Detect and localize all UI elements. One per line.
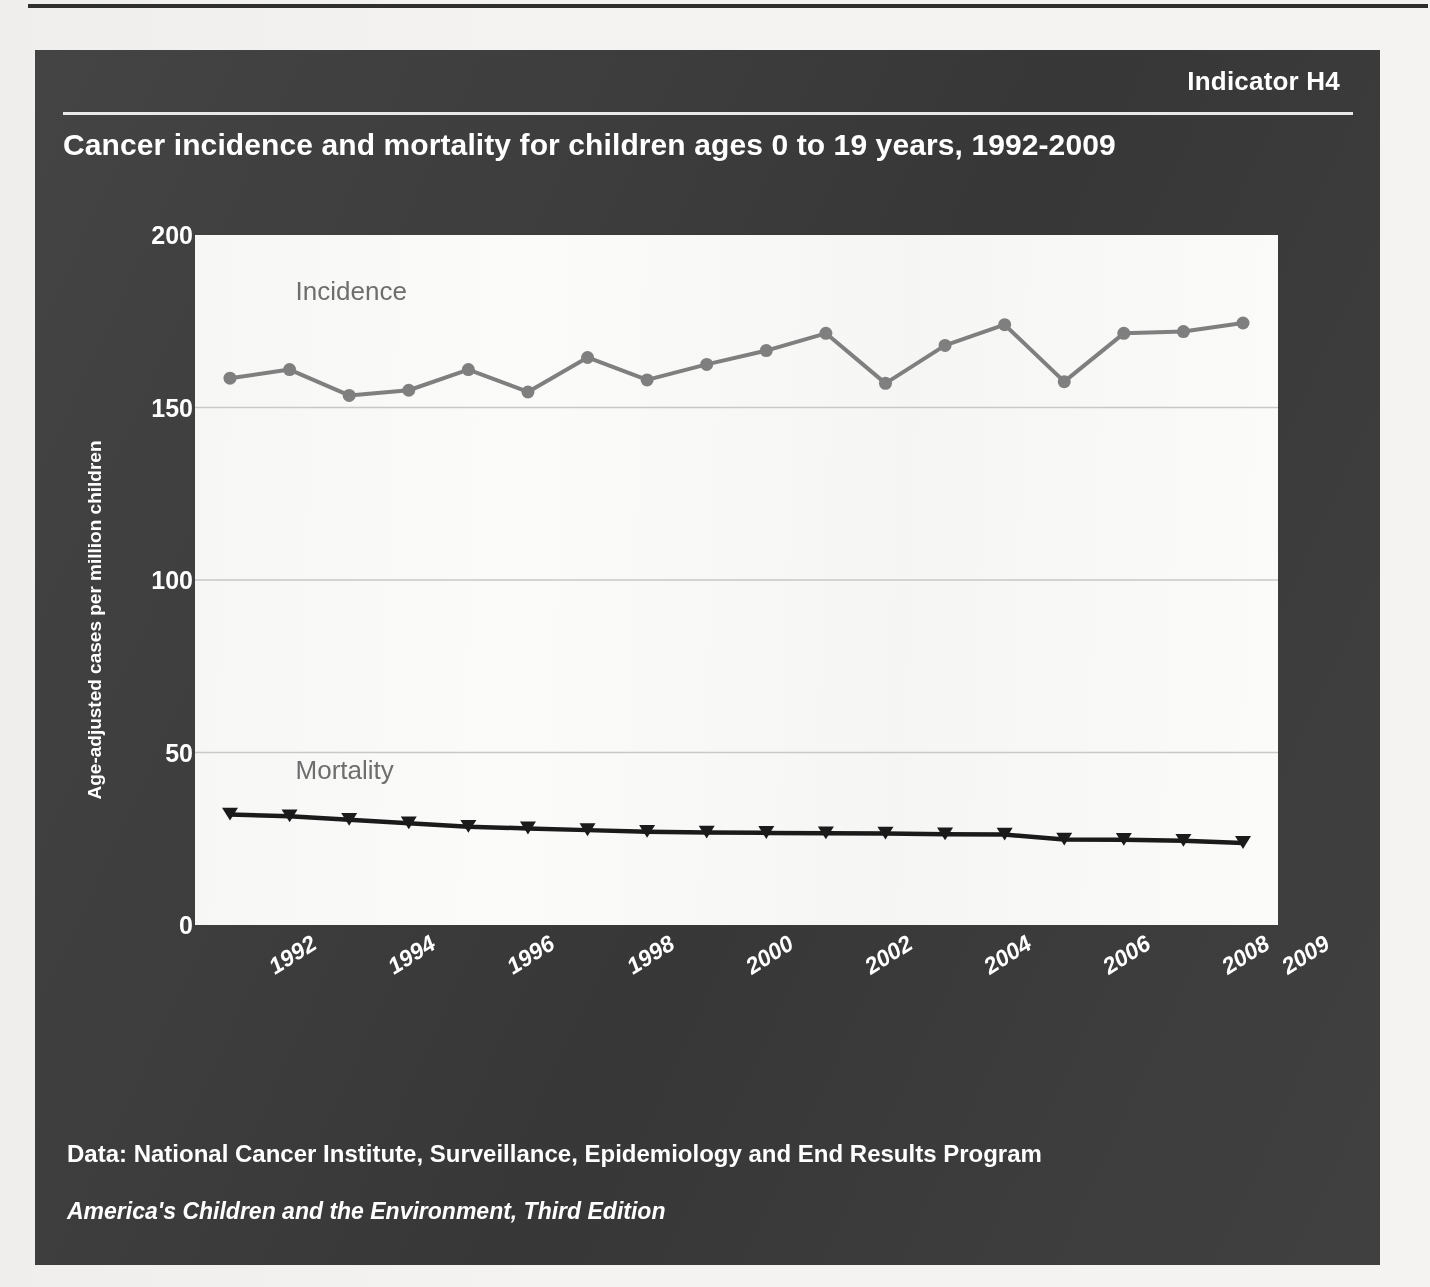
page-title: Cancer incidence and mortality for child… (63, 128, 1353, 162)
x-tick-label: 1994 (383, 930, 441, 980)
series-annotation-mortality: Mortality (296, 755, 394, 786)
header-divider (63, 112, 1353, 115)
y-axis-ticks: 050100150200 (105, 50, 193, 1265)
data-point-incidence (581, 351, 594, 364)
data-point-incidence (641, 373, 654, 386)
y-tick-label: 0 (179, 911, 193, 940)
chart-svg (195, 235, 1278, 925)
data-point-incidence (1058, 375, 1071, 388)
y-tick-label: 100 (151, 566, 193, 595)
x-tick-label: 2004 (979, 930, 1037, 980)
data-point-incidence (998, 318, 1011, 331)
series-line-mortality (230, 815, 1243, 843)
data-point-incidence (402, 384, 415, 397)
x-axis-ticks: 1992199419961998200020022004200620082009 (195, 930, 1278, 1040)
x-tick-label: 1992 (264, 930, 322, 980)
x-tick-label: 2009 (1277, 930, 1335, 980)
indicator-badge: Indicator H4 (1187, 66, 1340, 97)
plot-area: IncidenceMortality (195, 235, 1278, 925)
page-top-rule (28, 4, 1428, 8)
data-point-incidence (760, 344, 773, 357)
data-point-incidence (879, 377, 892, 390)
x-tick-label: 1996 (502, 930, 560, 980)
series-line-incidence (230, 323, 1243, 395)
data-point-incidence (521, 385, 534, 398)
x-tick-label: 2000 (740, 930, 798, 980)
x-tick-label: 1998 (621, 930, 679, 980)
x-tick-label: 2002 (860, 930, 918, 980)
data-point-incidence (939, 339, 952, 352)
y-tick-label: 200 (151, 221, 193, 250)
footer-publication: America's Children and the Environment, … (67, 1198, 1357, 1225)
data-point-incidence (819, 327, 832, 340)
data-point-incidence (224, 372, 237, 385)
series-annotation-incidence: Incidence (296, 276, 407, 307)
x-tick-label: 2008 (1217, 930, 1275, 980)
data-point-incidence (1237, 316, 1250, 329)
y-axis-label-text: Age-adjusted cases per million children (83, 441, 105, 800)
data-point-incidence (462, 363, 475, 376)
data-point-incidence (700, 358, 713, 371)
indicator-panel: Indicator H4 Cancer incidence and mortal… (35, 50, 1380, 1265)
footer-data-source: Data: National Cancer Institute, Surveil… (67, 1140, 1357, 1168)
y-tick-label: 50 (165, 738, 193, 767)
data-point-incidence (283, 363, 296, 376)
page-canvas: Indicator H4 Cancer incidence and mortal… (0, 0, 1430, 1287)
y-tick-label: 150 (151, 393, 193, 422)
data-point-incidence (1177, 325, 1190, 338)
data-point-incidence (343, 389, 356, 402)
data-point-incidence (1117, 327, 1130, 340)
x-tick-label: 2006 (1098, 930, 1156, 980)
